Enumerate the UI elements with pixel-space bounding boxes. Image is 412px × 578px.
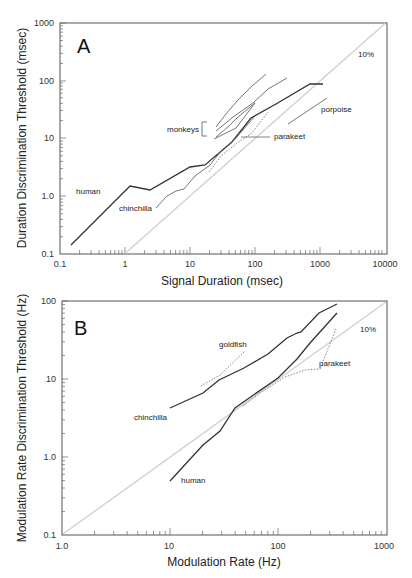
- panel-b-y-ticks: [62, 301, 68, 512]
- panel-a: 1000 100 10 1.0 0.1 0.1 1 10 100 1000 10…: [15, 18, 398, 288]
- panel-a-letter: A: [77, 35, 91, 57]
- panel-a-porpoise-label: porpoise: [321, 105, 352, 114]
- panel-a-ref-label: 10%: [358, 50, 374, 59]
- panel-b-ref-label: 10%: [360, 325, 376, 334]
- panel-a-ytick-0.1: 0.1: [41, 249, 54, 259]
- panel-b-human-label: human: [181, 476, 205, 485]
- panel-b-xtick-1000: 1000: [374, 541, 394, 551]
- panel-a-ytick-100: 100: [39, 76, 54, 86]
- panel-b-ytick-0.1: 0.1: [43, 530, 56, 540]
- panel-b-parakeet-label: parakeet: [319, 359, 351, 368]
- panel-a-human-label: human: [76, 187, 100, 196]
- panel-b-ytick-100: 100: [41, 296, 56, 306]
- panel-a-frame: [60, 23, 387, 254]
- panel-b-ytick-10: 10: [46, 374, 56, 384]
- panel-a-ytick-1000: 1000: [34, 18, 54, 28]
- panel-a-ytick-10: 10: [44, 133, 54, 143]
- panel-a-xtick-1: 1: [122, 259, 127, 269]
- panel-a-xtick-0.1: 0.1: [54, 259, 67, 269]
- panel-a-human-line: [71, 84, 323, 245]
- panel-b-reference-line: [63, 302, 386, 534]
- panel-b-goldfish-label: goldfish: [219, 340, 247, 349]
- panel-b-chinchilla-label: chinchilla: [134, 413, 167, 422]
- panel-a-ytick-1: 1.0: [41, 191, 54, 201]
- panel-a-y-axis-title: Duration Discrimination Threshold (msec): [15, 28, 29, 249]
- panel-a-xtick-10: 10: [185, 259, 195, 269]
- panel-b-chinchilla-line: [170, 304, 337, 408]
- panel-a-chinchilla-label: chinchilla: [119, 204, 152, 213]
- panel-b-x-ticks: [95, 528, 382, 535]
- panel-b-ytick-1: 1.0: [43, 452, 56, 462]
- panel-a-monkeys-line-1: [216, 74, 266, 127]
- panel-b: 100 10 1.0 0.1 1.0 10 100 1000 Modulatio…: [15, 294, 394, 569]
- panel-a-parakeet-label: parakeet: [274, 132, 306, 141]
- panel-b-goldfish-line: [201, 351, 245, 386]
- panel-b-xtick-10: 10: [164, 541, 174, 551]
- panel-a-xtick-1000: 1000: [310, 259, 330, 269]
- panel-a-parakeet-line: [209, 112, 268, 172]
- panel-a-xtick-100: 100: [247, 259, 262, 269]
- panel-a-x-axis-title: Signal Duration (msec): [161, 274, 283, 288]
- panel-b-x-axis-title: Modulation Rate (Hz): [167, 555, 280, 569]
- panel-a-xtick-10000: 10000: [372, 259, 397, 269]
- figure: 1000 100 10 1.0 0.1 0.1 1 10 100 1000 10…: [0, 0, 412, 578]
- panel-b-xtick-100: 100: [270, 541, 285, 551]
- panel-a-monkeys-bracket: [202, 122, 207, 136]
- panel-a-reference-line: [125, 24, 385, 254]
- panel-b-xtick-1: 1.0: [56, 541, 69, 551]
- panel-b-letter: B: [74, 317, 87, 339]
- panel-a-monkeys-label: monkeys: [167, 125, 199, 134]
- panel-b-y-axis-title: Modulation Rate Discrimination Threshold…: [15, 294, 29, 543]
- panel-a-y-ticks: [60, 23, 66, 237]
